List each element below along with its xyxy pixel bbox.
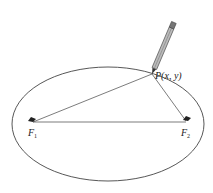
segment-f1-p: [33, 74, 152, 122]
pencil-icon: [150, 21, 176, 75]
segment-f2-p: [152, 74, 186, 121]
pin-f2-icon: [183, 116, 191, 121]
focus1-label: F1: [27, 127, 37, 139]
point-label: P(x, y): [154, 70, 182, 82]
ellipse-curve: [12, 67, 204, 181]
ellipse-diagram: P(x, y) F1 F2: [0, 0, 213, 193]
focus2-label: F2: [180, 127, 190, 139]
